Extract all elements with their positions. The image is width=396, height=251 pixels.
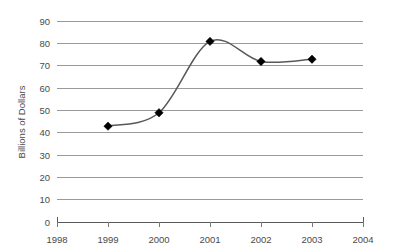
y-tick-label-0: 0 xyxy=(45,217,50,228)
line-chart: 90 80 70 60 50 40 30 20 10 0 1998 1999 2… xyxy=(0,0,396,251)
y-tick-label-20: 20 xyxy=(39,172,50,183)
x-tick-label-2002: 2002 xyxy=(250,234,271,245)
y-tick-label-90: 90 xyxy=(39,16,50,27)
x-tick-label-1999: 1999 xyxy=(97,234,118,245)
x-axis-tick-labels: 1998 1999 2000 2001 2002 2003 2004 xyxy=(46,234,373,245)
y-tick-label-50: 50 xyxy=(39,105,50,116)
chart-canvas: 90 80 70 60 50 40 30 20 10 0 1998 1999 2… xyxy=(0,0,396,251)
y-axis-tick-labels: 90 80 70 60 50 40 30 20 10 0 xyxy=(39,16,50,228)
series-line-billions-of-dollars xyxy=(108,40,312,127)
y-axis-title: Billions of Dollars xyxy=(16,85,27,158)
data-point-2002 xyxy=(257,57,265,65)
y-tick-label-80: 80 xyxy=(39,38,50,49)
y-tick-label-70: 70 xyxy=(39,60,50,71)
x-tick-label-2001: 2001 xyxy=(199,234,220,245)
series-markers xyxy=(104,37,316,130)
y-tick-label-40: 40 xyxy=(39,127,50,138)
x-tick-marks xyxy=(57,222,363,227)
data-point-2003 xyxy=(308,55,316,63)
y-tick-label-30: 30 xyxy=(39,150,50,161)
x-tick-label-1998: 1998 xyxy=(46,234,67,245)
data-point-2001 xyxy=(206,37,214,45)
y-tick-label-60: 60 xyxy=(39,83,50,94)
data-point-1999 xyxy=(104,122,112,130)
x-tick-label-2000: 2000 xyxy=(148,234,169,245)
y-tick-label-10: 10 xyxy=(39,194,50,205)
gridlines xyxy=(57,21,363,200)
x-tick-label-2004: 2004 xyxy=(352,234,373,245)
x-tick-label-2003: 2003 xyxy=(301,234,322,245)
